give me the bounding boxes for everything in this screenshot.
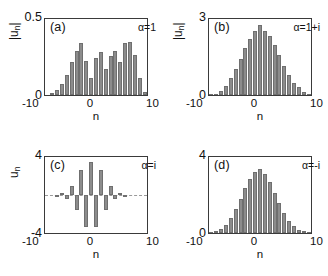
bar	[143, 92, 147, 95]
bar	[50, 93, 54, 95]
bar	[209, 94, 213, 95]
bar	[65, 195, 69, 199]
panel-d-ytick-top: 4	[190, 149, 206, 162]
bar	[243, 188, 247, 233]
bar	[94, 195, 98, 227]
bar	[224, 86, 228, 95]
bar	[282, 213, 286, 233]
bar	[263, 174, 267, 233]
bar	[84, 61, 88, 95]
bar	[60, 84, 64, 95]
bar	[70, 186, 74, 196]
panel-d: 4 0 (d) α=-i -10 0 10 n	[164, 138, 328, 276]
bar	[89, 78, 93, 95]
panel-d-xticks: -10 0 10	[164, 236, 328, 250]
bar	[104, 195, 108, 210]
bar	[75, 195, 79, 210]
bar	[229, 218, 233, 233]
bar	[263, 31, 267, 95]
bar	[70, 62, 74, 95]
bar	[99, 52, 103, 95]
bar	[273, 193, 277, 233]
panel-b-xtick-max: 10	[310, 98, 323, 110]
panel-a: 0.5 0 |un| (a) α=1 -10 0 10 n	[0, 0, 164, 138]
panel-a-xticks: -10 0 10	[0, 98, 164, 112]
panel-b-x-axis-label: n	[257, 111, 263, 123]
bar	[214, 231, 218, 233]
bar	[248, 179, 252, 233]
bar	[268, 182, 272, 233]
bar	[292, 226, 296, 233]
panel-a-xtick-max: 10	[146, 98, 159, 110]
bar	[307, 94, 311, 95]
bar	[123, 195, 127, 197]
bar	[229, 78, 233, 95]
bar	[55, 90, 59, 95]
bar	[84, 195, 88, 227]
panel-d-tag: (d)	[214, 159, 230, 172]
bar	[123, 43, 127, 95]
bar	[113, 195, 117, 199]
bar	[248, 39, 252, 95]
bar	[138, 78, 142, 95]
panel-c: 4 -4 un (c) α=i -10 0 10 n	[0, 138, 164, 276]
panel-b-xtick-min: -10	[186, 98, 203, 110]
bar	[99, 170, 103, 195]
bar	[277, 203, 281, 233]
bar	[292, 83, 296, 95]
bar	[209, 232, 213, 233]
bar	[104, 69, 108, 95]
panel-d-x-axis-label: n	[257, 249, 263, 261]
multi-panel-figure: 0.5 0 |un| (a) α=1 -10 0 10 n 3 0 |un| (…	[0, 0, 328, 276]
panel-c-xticks: -10 0 10	[0, 236, 164, 250]
bar	[239, 199, 243, 233]
panel-c-xtick-mid: 0	[87, 236, 93, 248]
bar	[109, 186, 113, 196]
panel-c-x-axis-label: n	[93, 249, 99, 261]
bar	[258, 169, 262, 233]
bar	[55, 195, 59, 197]
panel-c-y-axis-label: un	[8, 167, 21, 178]
panel-a-xtick-mid: 0	[87, 98, 93, 110]
bar	[128, 42, 132, 95]
panel-b-xticks: -10 0 10	[164, 98, 328, 112]
bar	[75, 51, 79, 95]
panel-a-ytick-top: 0.5	[18, 11, 42, 24]
bar	[109, 56, 113, 95]
bar	[224, 225, 228, 233]
bar	[234, 209, 238, 233]
bar	[253, 31, 257, 95]
bar	[302, 231, 306, 233]
bar	[277, 55, 281, 95]
bar	[89, 162, 93, 195]
panel-b-annotation: α=1+i	[293, 22, 320, 33]
panel-a-y-axis-label: |un|	[8, 22, 21, 40]
bar	[113, 51, 117, 95]
bar	[258, 25, 262, 95]
bar	[133, 55, 137, 95]
bar	[282, 66, 286, 95]
panel-b-xtick-mid: 0	[251, 98, 257, 110]
bar	[219, 91, 223, 95]
bar	[297, 230, 301, 233]
bar	[243, 48, 247, 95]
panel-c-annotation: α=i	[141, 160, 156, 171]
panel-b-y-axis-label: |un|	[172, 22, 185, 40]
bar	[273, 45, 277, 95]
bar	[94, 58, 98, 95]
panel-a-tag: (a)	[50, 21, 66, 34]
bar	[239, 59, 243, 95]
panel-c-ytick-top: 4	[26, 149, 42, 162]
panel-c-xtick-max: 10	[146, 236, 159, 248]
panel-b-ytick-top: 3	[190, 11, 206, 24]
bar	[219, 229, 223, 233]
panel-c-tag: (c)	[50, 159, 65, 172]
bar	[287, 221, 291, 233]
panel-b: 3 0 |un| (b) α=1+i -10 0 10 n	[164, 0, 328, 138]
bar	[65, 75, 69, 95]
panel-a-xtick-min: -10	[22, 98, 39, 110]
bar	[234, 69, 238, 95]
bar	[79, 170, 83, 195]
bar	[287, 75, 291, 95]
bar	[60, 193, 64, 195]
